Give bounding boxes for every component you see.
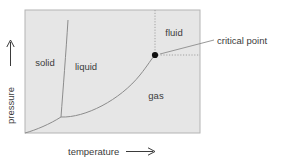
- critical-point-marker: [152, 52, 158, 58]
- region-label-fluid: fluid: [165, 27, 182, 38]
- x-axis-label: temperature: [68, 146, 119, 157]
- region-label-liquid: liquid: [75, 61, 97, 72]
- phase-diagram-canvas: solid liquid gas fluid critical point te…: [0, 0, 285, 162]
- region-label-solid: solid: [35, 57, 55, 68]
- phase-diagram-figure: solid liquid gas fluid critical point te…: [0, 0, 285, 162]
- critical-point-label: critical point: [217, 35, 268, 46]
- y-axis-label: pressure: [5, 87, 16, 124]
- region-label-gas: gas: [148, 90, 164, 101]
